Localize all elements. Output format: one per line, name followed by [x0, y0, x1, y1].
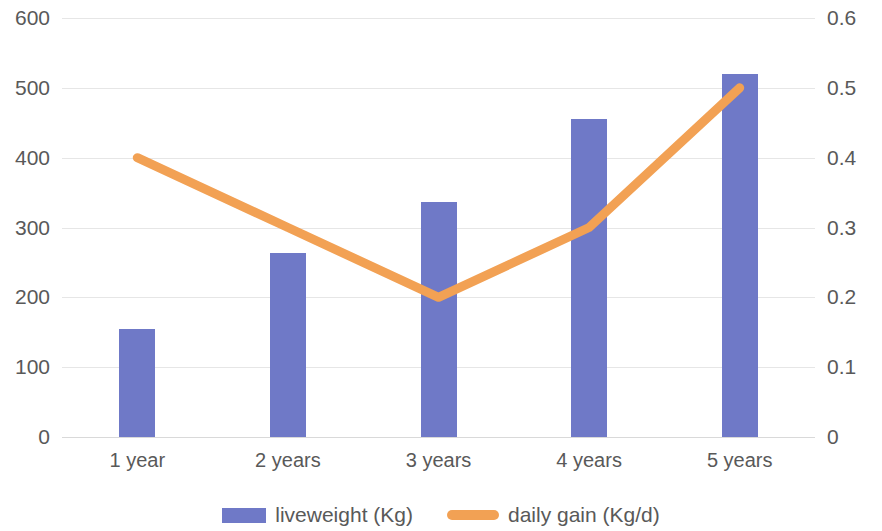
line-series-daily-gain	[62, 18, 815, 437]
y-axis-left-tick-label: 400	[0, 147, 50, 168]
plot-area	[62, 18, 815, 437]
y-axis-left-tick-label: 500	[0, 77, 50, 98]
x-axis-tick-label: 5 years	[670, 449, 810, 472]
y-axis-right-tick-label: 0.5	[827, 77, 882, 98]
chart-legend: liveweight (Kg) daily gain (Kg/d)	[0, 499, 882, 531]
y-axis-left-tick-label: 0	[0, 426, 50, 447]
y-axis-left-tick-label: 200	[0, 286, 50, 307]
x-axis-tick-label: 2 years	[218, 449, 358, 472]
bar-swatch-icon	[222, 508, 266, 523]
x-axis-tick-label: 1 year	[67, 449, 207, 472]
y-axis-right-tick-label: 0.3	[827, 217, 882, 238]
legend-label-daily-gain: daily gain (Kg/d)	[508, 503, 660, 527]
legend-item-daily-gain: daily gain (Kg/d)	[447, 503, 660, 527]
legend-item-liveweight: liveweight (Kg)	[222, 503, 413, 527]
y-axis-left-tick-label: 600	[0, 7, 50, 28]
gridline	[62, 437, 815, 438]
y-axis-right-tick-label: 0.1	[827, 356, 882, 377]
x-axis: 1 year2 years3 years4 years5 years	[62, 449, 815, 479]
y-axis-left-tick-label: 300	[0, 217, 50, 238]
x-axis-tick-label: 3 years	[369, 449, 509, 472]
y-axis-right-tick-label: 0	[827, 426, 882, 447]
legend-label-liveweight: liveweight (Kg)	[275, 503, 413, 527]
y-axis-left-tick-label: 100	[0, 356, 50, 377]
x-axis-tick-label: 4 years	[519, 449, 659, 472]
y-axis-right-tick-label: 0.2	[827, 286, 882, 307]
y-axis-right-tick-label: 0.4	[827, 147, 882, 168]
daily-gain-polyline	[137, 88, 739, 298]
line-swatch-icon	[447, 510, 499, 520]
chart-container: 0100200300400500600 00.10.20.30.40.50.6 …	[0, 0, 882, 531]
y-axis-right-tick-label: 0.6	[827, 7, 882, 28]
